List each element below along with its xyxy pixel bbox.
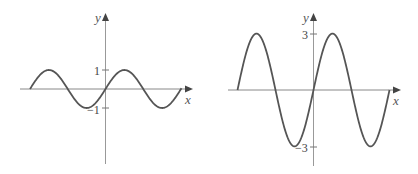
tick-label-pos: 1 (94, 64, 100, 78)
x-axis-label: x (184, 92, 191, 107)
chart-canvas: y x 1 −1 y x 3 −3 (0, 0, 418, 174)
tick-label-neg: −1 (87, 103, 100, 117)
y-axis-arrow-icon (310, 13, 317, 21)
x-axis-label: x (392, 93, 399, 108)
tick-label-pos: 3 (302, 28, 308, 42)
y-axis-label: y (301, 10, 309, 25)
chart-left: y x 1 −1 (20, 10, 193, 164)
tick-label-neg: −3 (295, 141, 308, 155)
y-axis-arrow-icon (102, 13, 109, 21)
y-axis-label: y (93, 10, 101, 25)
chart-right: y x 3 −3 (228, 10, 401, 166)
